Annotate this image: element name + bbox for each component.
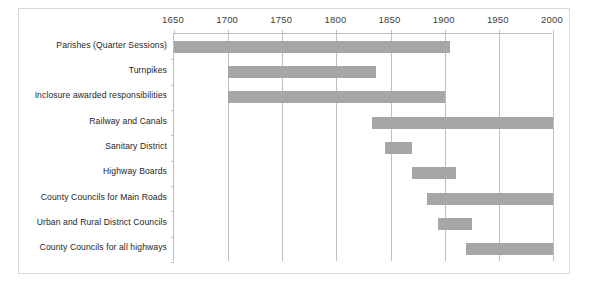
timeline-bar [427, 193, 553, 205]
category-label: Parishes (Quarter Sessions) [17, 40, 167, 50]
y-axis-category-labels: Parishes (Quarter Sessions)TurnpikesIncl… [19, 33, 171, 261]
x-axis-tick-label: 1700 [216, 14, 238, 25]
y-axis-tick-mark [171, 85, 174, 86]
y-axis-tick-mark [171, 262, 174, 263]
category-label: County Councils for all highways [17, 242, 167, 252]
x-axis-tick-label: 1650 [162, 14, 184, 25]
y-axis-tick-mark [171, 161, 174, 162]
category-label: Inclosure awarded responsibilities [17, 90, 167, 100]
x-axis-tick-mark [391, 30, 392, 34]
timeline-bar [466, 243, 553, 255]
timeline-bar [385, 142, 412, 154]
timeline-bar [228, 66, 376, 78]
category-label: Highway Boards [17, 166, 167, 176]
category-label: Railway and Canals [17, 116, 167, 126]
category-label: County Councils for Main Roads [17, 192, 167, 202]
plot-area [173, 33, 552, 261]
x-axis-tick-label: 1800 [324, 14, 346, 25]
y-axis-tick-mark [171, 237, 174, 238]
x-axis-tick-mark [336, 30, 337, 34]
gridline [553, 34, 554, 261]
y-axis-tick-mark [171, 59, 174, 60]
x-axis-tick-label: 1900 [433, 14, 455, 25]
y-axis-tick-mark [171, 211, 174, 212]
x-axis-tick-label: 1750 [270, 14, 292, 25]
gridline [499, 34, 500, 261]
x-axis-tick-label: 1950 [487, 14, 509, 25]
x-axis-tick-label: 2000 [541, 14, 563, 25]
x-axis-tick-label: 1850 [379, 14, 401, 25]
timeline-bar [372, 117, 553, 129]
y-axis-tick-mark [171, 110, 174, 111]
x-axis-tick-mark [445, 30, 446, 34]
x-axis-tick-labels: 16501700175018001850190019502000 [19, 14, 571, 30]
x-axis-tick-mark [499, 30, 500, 34]
timeline-bar [228, 91, 445, 103]
category-label: Urban and Rural District Councils [17, 217, 167, 227]
x-axis-tick-mark [282, 30, 283, 34]
x-axis-tick-mark [228, 30, 229, 34]
y-axis-tick-mark [171, 135, 174, 136]
category-label: Turnpikes [17, 65, 167, 75]
y-axis-tick-mark [171, 186, 174, 187]
timeline-bar [412, 167, 455, 179]
x-axis-tick-mark [553, 30, 554, 34]
category-label: Sanitary District [17, 141, 167, 151]
chart-frame: 16501700175018001850190019502000 Parishe… [18, 8, 570, 274]
x-axis-tick-mark [174, 30, 175, 34]
timeline-bar [174, 41, 450, 53]
timeline-bar [438, 218, 472, 230]
